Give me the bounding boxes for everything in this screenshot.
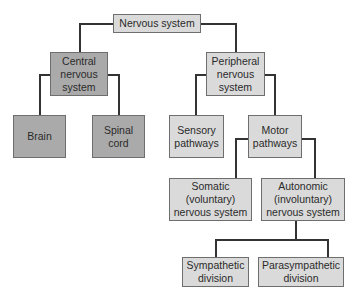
node-brain: Brain [13, 115, 66, 158]
node-central-nervous-system: Central nervous system [50, 52, 108, 96]
connector-pns-motor [274, 74, 276, 115]
connector-motor-left [235, 138, 248, 140]
connector-root-left [79, 23, 113, 25]
node-parasympathetic-division: Parasympathetic division [258, 257, 344, 287]
connector-autonomic-sympathetic [215, 239, 217, 257]
node-motor-pathways: Motor pathways [248, 115, 302, 158]
node-sympathetic-division: Sympathetic division [182, 257, 249, 287]
connector-cns-left [39, 74, 50, 76]
connector-root-cns [79, 23, 81, 52]
connector-autonomic-parasympathetic [327, 239, 329, 257]
node-somatic-nervous-system: Somatic (voluntary) nervous system [169, 178, 252, 221]
connector-pns-left [195, 74, 206, 76]
node-sensory-pathways: Sensory pathways [169, 115, 224, 158]
connector-root-right [201, 23, 236, 25]
node-peripheral-nervous-system: Peripheral nervous system [206, 52, 265, 96]
node-spinal-cord: Spinal cord [92, 115, 145, 158]
connector-pns-sensory [195, 74, 197, 115]
connector-autonomic-bar [215, 239, 329, 241]
connector-cns-brain [39, 74, 41, 115]
connector-cns-spinal [118, 74, 120, 115]
connector-autonomic-stem [295, 221, 297, 240]
connector-root-pns [235, 23, 237, 52]
connector-motor-somatic [235, 138, 237, 178]
node-autonomic-nervous-system: Autonomic (involuntary) nervous system [261, 178, 345, 221]
node-nervous-system: Nervous system [113, 14, 201, 33]
connector-motor-autonomic [314, 138, 316, 178]
